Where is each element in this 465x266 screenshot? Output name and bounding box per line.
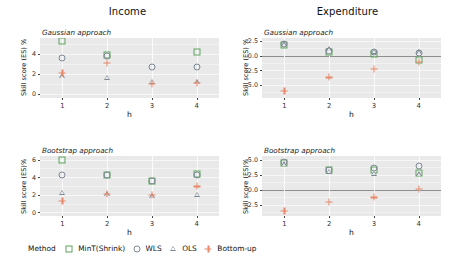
x-tick-label: 1 xyxy=(274,220,294,228)
panel-subtitle: Bootstrap approach xyxy=(264,146,335,155)
gridline-major xyxy=(40,177,219,178)
gridline-minor xyxy=(262,92,441,93)
gridline-vertical xyxy=(329,38,330,98)
panel-top-right: Gaussian approachSkill score (ES) %2.50.… xyxy=(236,28,441,120)
gridline-vertical xyxy=(284,38,285,98)
y-tick-mark xyxy=(38,160,40,161)
x-tick-mark xyxy=(107,216,108,218)
y-tick-label: 0 xyxy=(22,209,36,217)
gridline-major xyxy=(40,74,219,75)
x-axis-label: h xyxy=(262,228,441,237)
panel-bottom-right: Bootstrap approachSkill score (ES)%5.02.… xyxy=(236,146,441,238)
x-tick-mark xyxy=(197,216,198,218)
gridline-major xyxy=(262,160,441,161)
y-axis-label: Skill score (ES) % xyxy=(20,39,28,96)
gridline-major xyxy=(40,94,219,95)
gridline-minor xyxy=(262,182,441,183)
figure-root: Income Expenditure Gaussian approachSkil… xyxy=(0,0,465,266)
gridline-vertical xyxy=(62,38,63,98)
legend-item-wls[interactable]: WLS xyxy=(131,243,162,254)
x-tick-label: 1 xyxy=(274,102,294,110)
y-tick-mark xyxy=(260,85,262,86)
y-tick-label: -2.5 xyxy=(244,67,258,75)
y-tick-mark xyxy=(260,205,262,206)
x-tick-label: 2 xyxy=(319,220,339,228)
gridline-major xyxy=(262,41,441,42)
gridline-minor xyxy=(262,212,441,213)
plot-area xyxy=(262,38,441,98)
gridline-major xyxy=(40,54,219,55)
square-marker-icon xyxy=(64,243,75,254)
y-tick-label: 4 xyxy=(22,50,36,58)
legend-item-bottom-up[interactable]: Bottom-up xyxy=(203,243,257,254)
x-tick-mark xyxy=(284,98,285,100)
column-title-expenditure: Expenditure xyxy=(250,6,445,17)
plus-glyph xyxy=(205,245,212,252)
legend-label: Bottom-up xyxy=(217,244,256,253)
y-tick-mark xyxy=(38,195,40,196)
gridline-vertical xyxy=(107,38,108,98)
x-tick-label: 4 xyxy=(187,102,207,110)
gridline-vertical xyxy=(197,38,198,98)
gridline-vertical xyxy=(152,38,153,98)
y-tick-mark xyxy=(260,175,262,176)
plot-area xyxy=(40,156,219,216)
legend-item-mint-shrink[interactable]: MinT(Shrink) xyxy=(64,243,125,254)
gridline-minor xyxy=(262,48,441,49)
y-tick-label: 6 xyxy=(22,156,36,164)
x-tick-label: 2 xyxy=(319,102,339,110)
legend-item-ols[interactable]: OLS xyxy=(168,243,197,254)
legend-label: OLS xyxy=(182,244,197,253)
gridline-major xyxy=(262,70,441,71)
legend: Method MinT(Shrink)WLSOLSBottom-up xyxy=(28,243,262,254)
legend-label: WLS xyxy=(146,244,162,253)
y-tick-label: 0 xyxy=(22,90,36,98)
y-tick-mark xyxy=(260,41,262,42)
gridline-minor xyxy=(40,168,219,169)
column-title-income: Income xyxy=(30,6,225,17)
x-axis-label: h xyxy=(40,110,219,119)
gridline-minor xyxy=(262,167,441,168)
gridline-major xyxy=(40,195,219,196)
x-tick-label: 4 xyxy=(187,220,207,228)
x-axis-label: h xyxy=(262,110,441,119)
gridline-major xyxy=(262,175,441,176)
y-tick-mark xyxy=(260,190,262,191)
x-tick-mark xyxy=(152,98,153,100)
x-tick-label: 4 xyxy=(409,102,429,110)
y-tick-label: 0.0 xyxy=(244,52,258,60)
panel-subtitle: Gaussian approach xyxy=(264,28,333,37)
gridline-vertical xyxy=(62,156,63,216)
x-tick-label: 3 xyxy=(142,102,162,110)
x-tick-mark xyxy=(419,216,420,218)
gridline-major xyxy=(40,212,219,213)
y-tick-label: 2.5 xyxy=(244,37,258,45)
x-tick-mark xyxy=(329,216,330,218)
y-axis-label: Skill score (ES)% xyxy=(20,159,28,214)
gridline-vertical xyxy=(284,156,285,216)
y-tick-mark xyxy=(38,212,40,213)
x-tick-mark xyxy=(419,98,420,100)
gridline-vertical xyxy=(374,156,375,216)
y-tick-label: 0.0 xyxy=(244,186,258,194)
x-tick-mark xyxy=(329,98,330,100)
gridline-major xyxy=(262,85,441,86)
y-tick-label: 4 xyxy=(22,174,36,182)
x-tick-mark xyxy=(197,98,198,100)
y-tick-label: 2 xyxy=(22,70,36,78)
y-tick-label: 5.0 xyxy=(244,156,258,164)
legend-title: Method xyxy=(28,244,56,253)
y-tick-label: -5.0 xyxy=(244,81,258,89)
gridline-vertical xyxy=(329,156,330,216)
triangle-glyph xyxy=(170,246,176,251)
gridline-minor xyxy=(40,204,219,205)
plus-marker-icon xyxy=(203,243,214,254)
circle-glyph xyxy=(133,245,140,252)
x-tick-label: 1 xyxy=(52,102,72,110)
x-tick-mark xyxy=(107,98,108,100)
zero-reference-line xyxy=(262,56,441,57)
gridline-minor xyxy=(40,44,219,45)
panel-subtitle: Bootstrap approach xyxy=(42,146,113,155)
y-tick-label: 2.5 xyxy=(244,171,258,179)
plot-area xyxy=(262,156,441,216)
